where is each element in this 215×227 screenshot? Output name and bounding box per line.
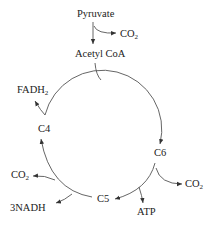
arc-c5-to-c4 [41, 139, 92, 197]
arrow-fadh2 [35, 101, 45, 115]
label-c4: C4 [38, 124, 50, 135]
arc-c6-to-c5 [115, 163, 155, 199]
arrow-atp [139, 187, 143, 203]
fadh2-sub: 2 [45, 89, 49, 97]
label-c5: C5 [97, 194, 109, 205]
label-co2-c6: CO2 [185, 179, 203, 191]
arrow-pyruvate-co2 [94, 26, 116, 33]
arrow-c6-co2 [156, 168, 182, 184]
line-acetylcoa-to-cycle [95, 63, 101, 80]
co2-sub: 2 [26, 174, 30, 182]
arrow-c5-co2 [33, 176, 55, 180]
arrow-nadh [56, 194, 72, 203]
co2-sub: 2 [200, 183, 204, 191]
label-co2-c5: CO2 [11, 170, 29, 182]
co2-base: CO [120, 28, 135, 39]
arc-acetylcoa-to-c6 [45, 70, 162, 144]
co2-sub: 2 [135, 33, 139, 41]
label-atp: ATP [137, 207, 156, 218]
fadh2-base: FADH [17, 84, 45, 95]
label-pyruvate: Pyruvate [77, 9, 114, 20]
label-c6: C6 [154, 148, 166, 159]
label-fadh2: FADH2 [17, 85, 48, 97]
label-acetyl-coa: Acetyl CoA [75, 49, 125, 60]
label-co2-pyruvate: CO2 [120, 29, 138, 41]
label-nadh: 3NADH [10, 203, 46, 214]
co2-base: CO [11, 169, 26, 180]
co2-base: CO [185, 178, 200, 189]
